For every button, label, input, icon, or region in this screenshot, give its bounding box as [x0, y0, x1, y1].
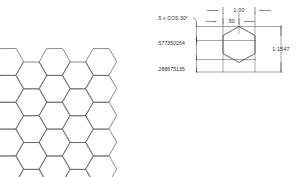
dimension-height-full: 1.1547 — [272, 27, 289, 72]
dimension-width-full: 1.00 — [207, 7, 271, 14]
dim-label-across-flats: .577350264 — [157, 40, 185, 46]
hexagon-detail-layer: 1.00 .50 .5 x COS 30° .577350264 .288675… — [0, 0, 297, 177]
dim-label-width-half: .50 — [227, 18, 235, 24]
note-label-cos: .5 x COS 30° — [157, 15, 188, 21]
dim-label-width-full: 1.00 — [233, 7, 244, 13]
dim-label-apothem: .288675135 — [157, 66, 185, 72]
drawing-canvas: 1.00 .50 .5 x COS 30° .577350264 .288675… — [0, 0, 297, 177]
dimension-width-half: .50 — [206, 18, 255, 24]
note-cos-leader: .5 x COS 30° — [157, 15, 197, 21]
dim-label-height-full: 1.1547 — [272, 46, 289, 52]
leader-line-cos — [193, 18, 197, 21]
